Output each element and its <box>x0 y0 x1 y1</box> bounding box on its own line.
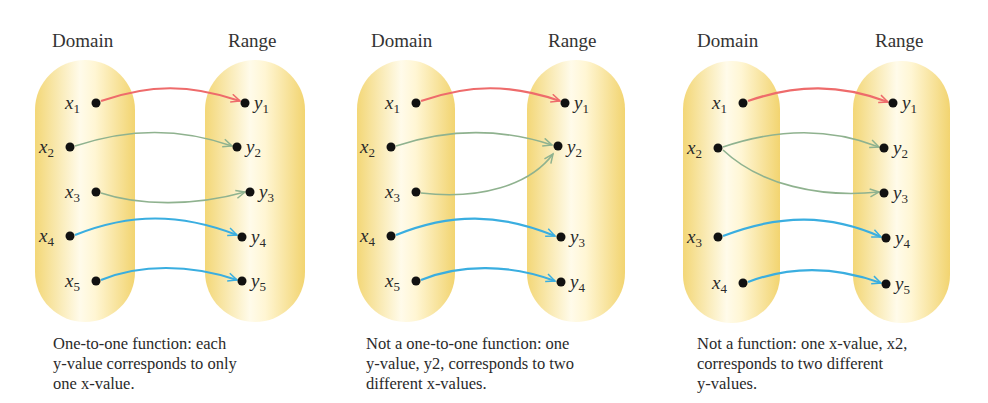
caption-line: Not a function: one x-value, x2, <box>697 334 988 354</box>
domain-oval <box>357 60 455 322</box>
caption-line: one x-value. <box>53 374 353 394</box>
diagram-3-caption: Not a function: one x-value, x2, corresp… <box>697 334 988 394</box>
domain-oval <box>35 60 135 322</box>
caption-line: corresponds to two different <box>697 354 988 374</box>
caption-line: y-value, y2, corresponds to two <box>366 354 666 374</box>
caption-line: One-to-one function: each <box>53 334 353 354</box>
diagram-1-caption: One-to-one function: each y-value corres… <box>53 334 353 394</box>
caption-line: Not a one-to-one function: one <box>366 334 666 354</box>
caption-line: y-value corresponds to only <box>53 354 353 374</box>
diagram-not-a-function: x1 x2 x3 x4 y1 y2 y3 y4 y5 <box>683 61 950 323</box>
domain-oval <box>683 61 780 323</box>
caption-line: different x-values. <box>366 374 666 394</box>
caption-line: y-values. <box>697 374 988 394</box>
diagram-not-one-to-one: x1 x2 x3 x4 x5 y1 y2 y3 y4 <box>357 60 625 322</box>
diagram-2-caption: Not a one-to-one function: one y-value, … <box>366 334 666 394</box>
diagram-one-to-one: x1 x2 x3 x4 x5 y1 y2 y3 y4 y5 <box>35 60 305 322</box>
